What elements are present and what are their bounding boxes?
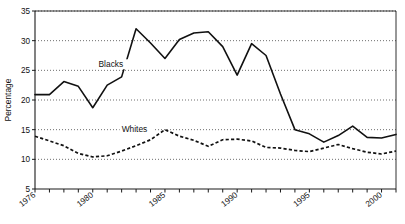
x-axis-ticks: 197619801985199019952000 [17, 189, 396, 209]
y-tick-label-20: 20 [21, 96, 31, 105]
series-label-whites: Whites [122, 124, 148, 134]
x-tick-label-1995: 1995 [292, 190, 312, 209]
y-tick-label-10: 10 [21, 155, 31, 164]
y-axis-ticks: 5101520253035 [21, 7, 35, 194]
x-tick-label-1990: 1990 [219, 190, 239, 209]
svg-text:Percentage: Percentage [3, 78, 13, 121]
y-tick-label-25: 25 [21, 66, 31, 75]
x-tick-label-1985: 1985 [147, 190, 167, 209]
y-axis-title: Percentage [3, 78, 13, 121]
y-tick-label-15: 15 [21, 126, 31, 135]
y-tick-label-30: 30 [21, 37, 31, 46]
series-label-blacks: Blacks [99, 59, 124, 69]
x-tick-label-2000: 2000 [364, 190, 384, 209]
chart-page: 5101520253035 197619801985199019952000 B… [0, 0, 405, 224]
x-tick-label-1976: 1976 [17, 190, 37, 209]
x-tick-label-1980: 1980 [75, 190, 95, 209]
y-tick-label-35: 35 [21, 7, 31, 16]
line-chart: 5101520253035 197619801985199019952000 B… [0, 0, 405, 224]
